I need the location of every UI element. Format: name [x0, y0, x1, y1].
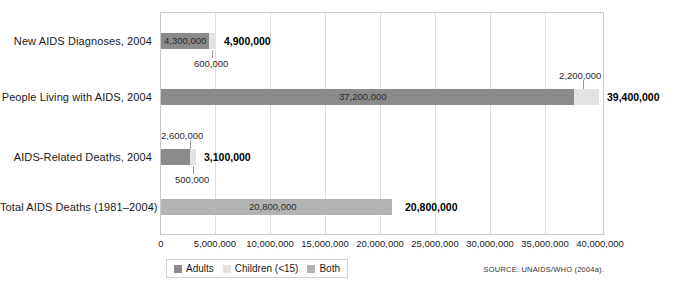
- xtick-label: 25,000,000: [411, 238, 459, 249]
- bar-callout-adults-row2: 2,600,000: [161, 130, 203, 141]
- xtick-label: 0: [158, 238, 163, 249]
- bar-callout-children-row1: 2,200,000: [559, 70, 601, 81]
- leader-line-children-row1: [583, 80, 584, 89]
- bar-total-row1: 39,400,000: [607, 89, 660, 105]
- legend-label-both: Both: [319, 263, 340, 274]
- bar-segment-adults-row2: [161, 149, 190, 165]
- xtick-label: 5,000,000: [194, 238, 236, 249]
- category-label-total-aids-deaths: Total AIDS Deaths (1981–2004): [0, 201, 152, 213]
- leader-line-children-row2: [193, 166, 194, 174]
- legend-item-children[interactable]: Children (<15): [223, 263, 299, 274]
- legend-label-children: Children (<15): [235, 263, 299, 274]
- bar-callout-children-row2: 500,000: [175, 174, 209, 185]
- category-label-new-aids-diagnoses: New AIDS Diagnoses, 2004: [0, 35, 152, 47]
- category-label-aids-related-deaths: AIDS-Related Deaths, 2004: [0, 151, 152, 163]
- legend-swatch-both-icon: [307, 265, 315, 273]
- legend-swatch-children-icon: [223, 265, 231, 273]
- chart-figure: New AIDS Diagnoses, 2004 4,300,000 4,900…: [0, 0, 674, 292]
- xtick-label: 30,000,000: [466, 238, 514, 249]
- legend-item-adults[interactable]: Adults: [174, 263, 214, 274]
- chart-legend: Adults Children (<15) Both: [166, 259, 348, 278]
- bar-segment-children-row2: [190, 149, 196, 165]
- bar-value-both-row3: 20,800,000: [249, 199, 297, 215]
- xtick-label: 40,000,000: [576, 238, 624, 249]
- leader-line-adults-row2: [190, 140, 191, 149]
- xtick-label: 20,000,000: [356, 238, 404, 249]
- xtick-label: 10,000,000: [246, 238, 294, 249]
- gridline: [490, 13, 491, 234]
- legend-item-both[interactable]: Both: [307, 263, 340, 274]
- bar-total-row3: 20,800,000: [405, 199, 458, 215]
- xtick-label: 15,000,000: [301, 238, 349, 249]
- bar-value-adults-row0: 4,300,000: [164, 33, 206, 49]
- leader-line-children-row0: [212, 50, 213, 58]
- category-label-people-living-with-aids: People Living with AIDS, 2004: [0, 91, 152, 103]
- bar-callout-children-row0: 600,000: [194, 58, 228, 69]
- gridline: [545, 13, 546, 234]
- bar-total-row0: 4,900,000: [224, 33, 271, 49]
- bar-segment-children-row0: [209, 33, 216, 49]
- bar-total-row2: 3,100,000: [204, 149, 251, 165]
- legend-swatch-adults-icon: [174, 265, 182, 273]
- legend-label-adults: Adults: [186, 263, 214, 274]
- xtick-label: 35,000,000: [521, 238, 569, 249]
- source-note: SOURCE: UNAIDS/WHO (2004a).: [484, 265, 604, 274]
- bar-segment-children-row1: [574, 89, 599, 105]
- bar-value-adults-row1: 37,200,000: [339, 89, 387, 105]
